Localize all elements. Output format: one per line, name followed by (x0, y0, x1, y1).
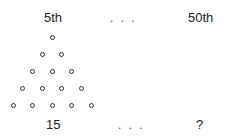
dot (50, 103, 55, 108)
dot (20, 86, 25, 91)
value-15: 15 (46, 118, 60, 132)
triangular-number-diagram: 5th . . . 50th 15 . . . ? (0, 0, 230, 140)
dot (30, 103, 35, 108)
top-ellipsis: . . . (110, 11, 137, 25)
dot (59, 86, 64, 91)
dot (79, 86, 84, 91)
label-50th: 50th (188, 11, 213, 25)
dot (69, 69, 74, 74)
bottom-ellipsis: . . . (118, 118, 145, 132)
dot (89, 103, 94, 108)
dot (50, 35, 55, 40)
dot (50, 69, 55, 74)
unknown-value: ? (196, 118, 203, 132)
dot (69, 103, 74, 108)
dot (30, 69, 35, 74)
dot (59, 52, 64, 57)
dot (11, 103, 16, 108)
dot (40, 86, 45, 91)
label-5th: 5th (44, 11, 62, 25)
dot (40, 52, 45, 57)
